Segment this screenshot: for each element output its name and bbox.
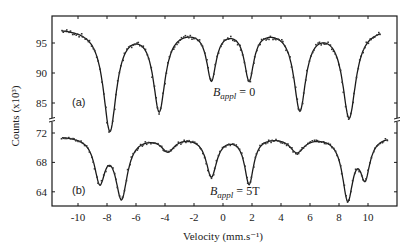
data-point xyxy=(96,56,98,58)
data-point xyxy=(112,121,114,123)
data-point xyxy=(334,53,336,55)
data-point xyxy=(385,138,387,140)
data-point xyxy=(383,141,385,143)
data-point xyxy=(105,171,107,173)
data-point xyxy=(97,60,99,62)
data-point xyxy=(169,56,171,58)
data-point xyxy=(270,36,272,38)
data-point xyxy=(155,97,157,99)
data-point xyxy=(282,142,284,144)
data-point xyxy=(259,44,261,46)
data-point xyxy=(272,39,274,41)
data-point xyxy=(122,60,124,62)
data-point xyxy=(135,151,137,153)
data-point xyxy=(151,67,153,69)
data-point xyxy=(233,143,235,145)
data-point xyxy=(219,151,221,153)
x-tick-label: -4 xyxy=(160,211,170,223)
x-tick-label: 2 xyxy=(249,211,255,223)
data-point xyxy=(112,167,114,169)
data-point xyxy=(278,39,280,41)
data-point xyxy=(164,83,166,85)
data-point xyxy=(73,138,75,140)
data-point xyxy=(358,171,360,173)
data-point xyxy=(82,36,84,38)
data-point xyxy=(181,142,183,144)
data-point xyxy=(328,143,330,145)
data-point xyxy=(131,156,133,158)
data-point xyxy=(131,47,133,49)
data-point xyxy=(120,199,122,201)
data-point xyxy=(274,38,276,40)
data-point xyxy=(284,143,286,145)
data-point xyxy=(371,157,373,159)
data-point xyxy=(330,144,332,146)
data-point xyxy=(284,46,286,48)
data-point xyxy=(347,201,349,203)
data-point xyxy=(271,140,273,142)
data-point xyxy=(358,169,360,171)
data-point xyxy=(100,184,102,186)
data-point xyxy=(213,174,215,176)
data-point xyxy=(300,150,302,152)
data-point xyxy=(352,180,354,182)
data-point xyxy=(287,52,289,54)
data-point xyxy=(61,138,63,140)
data-point xyxy=(151,142,153,144)
data-point xyxy=(370,39,372,41)
data-point xyxy=(327,42,329,44)
data-point xyxy=(230,36,232,38)
data-point xyxy=(79,141,81,143)
data-point xyxy=(297,98,299,100)
data-point xyxy=(91,157,93,159)
data-point xyxy=(241,152,243,154)
data-point xyxy=(374,36,376,38)
data-point xyxy=(299,109,301,111)
data-point xyxy=(63,31,65,33)
data-point xyxy=(317,42,319,44)
data-point xyxy=(109,130,111,132)
x-axis-title: Velocity (mm.s⁻¹) xyxy=(183,230,263,243)
data-point xyxy=(190,142,192,144)
data-point xyxy=(318,141,320,143)
data-point xyxy=(348,199,350,201)
data-point xyxy=(126,180,128,182)
data-point xyxy=(72,34,74,36)
data-point xyxy=(134,44,136,46)
data-point xyxy=(204,52,206,54)
data-point xyxy=(277,140,279,142)
data-point xyxy=(143,45,145,47)
data-point xyxy=(220,46,222,48)
data-point xyxy=(132,153,134,155)
y-tick-label: 85 xyxy=(36,97,48,109)
data-point xyxy=(352,102,354,104)
data-point xyxy=(295,153,297,155)
mossbauer-chart: -10-8-6-4-20246810 959085 726864 (a)(b)B… xyxy=(0,0,416,246)
data-point xyxy=(324,143,326,145)
data-point xyxy=(291,66,293,68)
data-point xyxy=(115,94,117,96)
data-point xyxy=(254,56,256,58)
data-point xyxy=(139,45,141,47)
data-point xyxy=(251,177,253,179)
data-point xyxy=(258,45,260,47)
data-point xyxy=(124,190,126,192)
data-point xyxy=(68,32,70,34)
data-point xyxy=(310,141,312,143)
data-point xyxy=(310,55,312,57)
data-point xyxy=(117,187,119,189)
panel-label-a: (a) xyxy=(72,96,85,108)
data-point xyxy=(66,138,68,140)
data-point xyxy=(92,161,94,163)
data-point xyxy=(368,43,370,45)
data-point xyxy=(89,151,91,153)
data-point xyxy=(186,140,188,142)
data-point xyxy=(192,141,194,143)
data-point xyxy=(204,157,206,159)
data-point xyxy=(333,148,335,150)
data-point xyxy=(306,70,308,72)
data-point xyxy=(236,144,238,146)
data-point xyxy=(305,79,307,81)
data-point xyxy=(63,138,65,140)
data-point xyxy=(347,115,349,117)
